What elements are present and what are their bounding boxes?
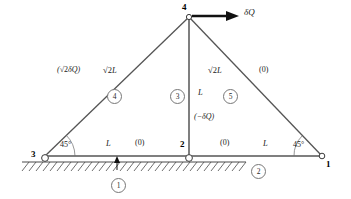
member-5-length-label: √2L [208,66,222,75]
member-5-force-label: (0) [259,66,268,74]
angle-label-node-3: 45° [60,141,71,149]
member-1-leader-arrow [114,156,120,170]
joint-node-4 [186,14,191,19]
member-number-badge-1: 1 [111,178,126,193]
load-arrow-delta-q [192,11,239,21]
member-3-force-label: (−δQ) [194,113,214,121]
node-label-1: 1 [326,160,331,169]
joint-node-2 [186,155,193,162]
member-5-line [189,17,322,156]
member-number-badge-3: 3 [170,89,185,104]
truss-members [45,17,322,156]
member-5-length-suffix: L [217,65,222,75]
node-label-2: 2 [180,140,185,149]
member-1-force-label: (0) [135,139,144,147]
ground-support-hatching [22,162,246,171]
member-number-badge-4: 4 [107,89,122,104]
member-number-badge-5: 5 [223,89,238,104]
joint-node-1 [319,153,325,159]
member-2-force-label: (0) [220,139,229,147]
node-label-4: 4 [182,3,187,12]
member-1-length-label: L [106,139,111,148]
node-label-3: 3 [31,150,36,159]
member-4-length-suffix: L [112,65,117,75]
angle-label-node-1: 45° [293,141,304,149]
member-3-length-label: L [198,88,203,97]
member-2-length-label: L [263,139,268,148]
member-4-length-label: √2L [103,66,117,75]
member-4-force-suffix: δQ) [68,65,80,74]
load-label-delta-q: δQ [244,8,255,17]
member-number-badge-2: 2 [251,164,266,179]
joint-node-3 [42,155,49,162]
member-4-force-label: (√2δQ) [57,66,80,74]
truss-diagram-figure: 4 2 3 1 δQ (√2δQ) √2L √2L (0) L (−δQ) L … [0,0,351,199]
